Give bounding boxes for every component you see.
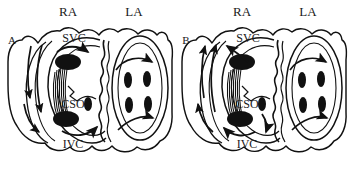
label-left-atrium: LA xyxy=(299,4,317,19)
label-ivc: IVC xyxy=(63,137,84,151)
coronary-sinus-ostium xyxy=(258,97,266,111)
atrial-anatomy-diagram: RA LA SVC IVC CSO A xyxy=(0,0,349,174)
label-left-atrium: LA xyxy=(125,4,143,19)
label-cso: CSO xyxy=(61,97,85,111)
label-ivc: IVC xyxy=(237,137,258,151)
coronary-sinus-ostium xyxy=(84,97,92,111)
ivc-ostium xyxy=(53,111,79,127)
label-svc: SVC xyxy=(236,31,259,45)
panel-label-b: B xyxy=(182,34,189,46)
panel-b: RA LA SVC IVC CSO B xyxy=(182,4,346,152)
pulmonary-vein-ostium-upper-right xyxy=(317,71,325,87)
label-right-atrium: RA xyxy=(233,4,252,19)
pulmonary-vein-ostium-upper-right xyxy=(143,71,151,87)
panel-b-la-flow-arrows xyxy=(290,58,327,130)
pulmonary-vein-ostium-upper-left xyxy=(298,72,306,88)
svc-ostium xyxy=(55,54,81,70)
label-svc: SVC xyxy=(62,31,85,45)
pulmonary-vein-ostium-upper-left xyxy=(124,72,132,88)
panel-b-anatomy-outline xyxy=(182,28,346,152)
panel-a-la-flow-arrows xyxy=(116,58,153,130)
pulmonary-vein-ostium-lower-left xyxy=(125,97,133,113)
label-right-atrium: RA xyxy=(59,4,78,19)
pulmonary-vein-ostium-lower-right xyxy=(144,96,152,112)
label-cso: CSO xyxy=(235,97,259,111)
panel-a: RA LA SVC IVC CSO A xyxy=(8,4,172,152)
ivc-ostium xyxy=(227,111,253,127)
panel-a-anatomy-outline xyxy=(8,28,172,152)
panel-label-a: A xyxy=(8,34,16,46)
pulmonary-vein-ostium-lower-left xyxy=(299,97,307,113)
pulmonary-vein-ostium-lower-right xyxy=(318,96,326,112)
figure-canvas: RA LA SVC IVC CSO A xyxy=(0,0,349,174)
